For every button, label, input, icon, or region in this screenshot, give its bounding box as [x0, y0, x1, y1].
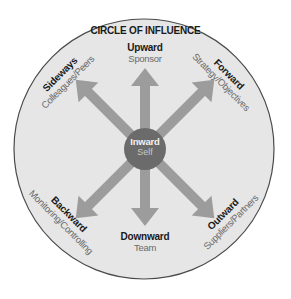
downward-subtitle: Team: [110, 243, 180, 253]
label-upward: Upward Sponsor: [115, 43, 175, 64]
label-downward: Downward Team: [110, 232, 180, 253]
upward-title: Upward: [115, 43, 175, 53]
upward-subtitle: Sponsor: [115, 54, 175, 64]
center-subtitle: Self: [125, 148, 165, 157]
center-title: Inward: [125, 137, 165, 147]
downward-title: Downward: [110, 232, 180, 242]
circle-of-influence-diagram: CIRCLE OF INFLUENCE Inward Self Upward S…: [0, 0, 291, 299]
center-label: Inward Self: [125, 137, 165, 157]
diagram-title: CIRCLE OF INFLUENCE: [0, 25, 291, 36]
